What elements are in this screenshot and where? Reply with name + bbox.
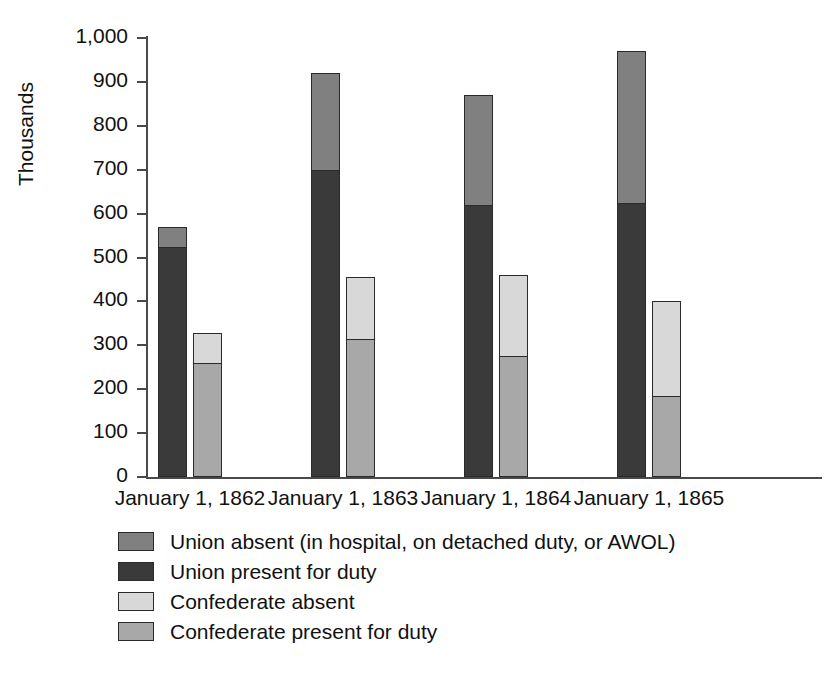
legend-item[interactable]: Union absent (in hospital, on detached d… (118, 527, 675, 556)
y-axis-tick (137, 81, 146, 83)
y-axis-tick-label: 400 (0, 287, 128, 311)
y-axis-tick-label: 200 (0, 375, 128, 399)
union-bar-11864 (464, 95, 493, 477)
y-axis-tick-label: 500 (0, 244, 128, 268)
confederate-bar-11864 (499, 275, 528, 477)
union-bar-11865 (617, 51, 646, 477)
confederate-present-segment (194, 363, 221, 476)
confederate-present-segment (653, 396, 680, 476)
confederate-bar-11865 (652, 301, 681, 477)
confederate-absent-segment (500, 276, 527, 356)
y-axis-tick-label: 900 (0, 68, 128, 92)
y-axis-tick-label: 600 (0, 200, 128, 224)
legend-item[interactable]: Union present for duty (118, 557, 675, 586)
union-absent-segment (312, 74, 339, 170)
legend-swatch-icon (118, 622, 154, 641)
union-absent-segment (618, 52, 645, 203)
y-axis-tick (137, 476, 146, 478)
chart-legend: Union absent (in hospital, on detached d… (118, 527, 675, 647)
confederate-absent-segment (347, 278, 374, 339)
y-axis-tick (137, 388, 146, 390)
x-axis-line (146, 477, 822, 479)
y-axis-tick-label: 1,000 (0, 24, 128, 48)
union-present-segment (465, 205, 492, 476)
y-axis-tick-label: 100 (0, 419, 128, 443)
x-axis-label-11865: January 1, 1865 (559, 486, 739, 510)
y-axis-tick (137, 169, 146, 171)
y-axis-tick (137, 432, 146, 434)
confederate-present-segment (500, 356, 527, 476)
confederate-present-segment (347, 339, 374, 476)
legend-swatch-icon (118, 562, 154, 581)
y-axis-tick (137, 300, 146, 302)
y-axis-tick-label: 0 (0, 463, 128, 487)
y-axis-tick (137, 257, 146, 259)
confederate-absent-segment (653, 302, 680, 395)
y-axis-tick (137, 213, 146, 215)
confederate-bar-11862 (193, 333, 222, 477)
legend-label: Union absent (in hospital, on detached d… (170, 530, 675, 554)
union-absent-segment (465, 96, 492, 205)
bar-chart: Thousands 1,0009008007006005004003002001… (0, 0, 829, 680)
union-present-segment (312, 170, 339, 476)
y-axis-tick-label: 800 (0, 112, 128, 136)
legend-item[interactable]: Confederate absent (118, 587, 675, 616)
union-bar-11863 (311, 73, 340, 477)
union-absent-segment (159, 228, 186, 248)
legend-label: Confederate absent (170, 590, 354, 614)
y-axis-tick (137, 125, 146, 127)
confederate-bar-11863 (346, 277, 375, 477)
plot-area (146, 38, 820, 477)
legend-swatch-icon (118, 592, 154, 611)
y-axis-tick (137, 344, 146, 346)
legend-item[interactable]: Confederate present for duty (118, 617, 675, 646)
legend-label: Confederate present for duty (170, 620, 437, 644)
y-axis-tick-label: 300 (0, 331, 128, 355)
union-bar-11862 (158, 227, 187, 477)
union-present-segment (159, 247, 186, 476)
y-axis-tick (137, 37, 146, 39)
confederate-absent-segment (194, 334, 221, 362)
y-axis-tick-label: 700 (0, 156, 128, 180)
union-present-segment (618, 203, 645, 476)
legend-label: Union present for duty (170, 560, 377, 584)
legend-swatch-icon (118, 532, 154, 551)
